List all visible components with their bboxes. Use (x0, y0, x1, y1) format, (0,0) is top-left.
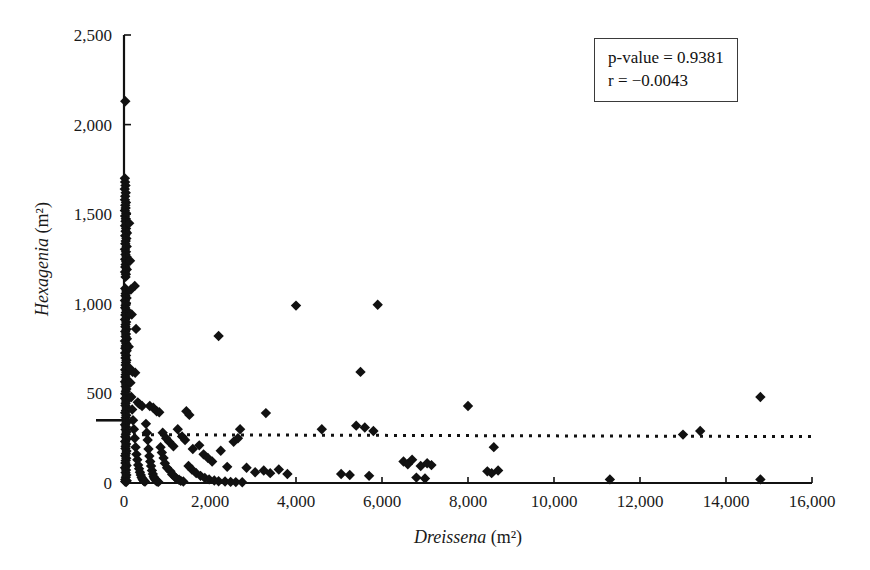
y-tick-label: 0 (104, 474, 113, 493)
x-tick-label: 14,000 (703, 492, 750, 511)
x-tick-label: 12,000 (617, 492, 664, 511)
x-tick-label: 4,000 (277, 492, 315, 511)
y-tick-label: 1,000 (74, 295, 112, 314)
x-tick-label: 8,000 (449, 492, 487, 511)
statistics-box: p-value = 0.9381 r = −0.0043 (594, 38, 738, 102)
svg-text:Dreissena (m²): Dreissena (m²) (413, 527, 522, 548)
y-axis-units-label: (m²) (32, 202, 53, 233)
x-axis-tick-labels: 02,0004,0006,0008,00010,00012,00014,0001… (120, 492, 836, 511)
x-axis-genus-label: Dreissena (413, 527, 486, 547)
y-tick-label: 2,500 (74, 26, 112, 45)
plot-canvas: 05001,0001,5002,0002,500 02,0004,0006,00… (0, 0, 870, 570)
x-axis-title: Dreissena (m²) (413, 527, 522, 548)
x-tick-label: 16,000 (789, 492, 836, 511)
y-axis-genus-label: Hexagenia (32, 238, 52, 317)
y-axis-title: Hexagenia (m²) (32, 202, 53, 317)
correlation-text: r = −0.0043 (608, 69, 724, 92)
y-tick-label: 2,000 (74, 116, 112, 135)
x-tick-label: 6,000 (363, 492, 401, 511)
x-axis-units-label: (m²) (491, 527, 522, 548)
x-tick-label: 0 (120, 492, 129, 511)
scatter-plot-figure: 05001,0001,5002,0002,500 02,0004,0006,00… (0, 0, 870, 570)
x-tick-label: 10,000 (531, 492, 578, 511)
y-tick-label: 500 (87, 384, 113, 403)
p-value-text: p-value = 0.9381 (608, 46, 724, 69)
svg-text:Hexagenia (m²): Hexagenia (m²) (32, 202, 53, 317)
x-tick-label: 2,000 (191, 492, 229, 511)
y-tick-label: 1,500 (74, 205, 112, 224)
